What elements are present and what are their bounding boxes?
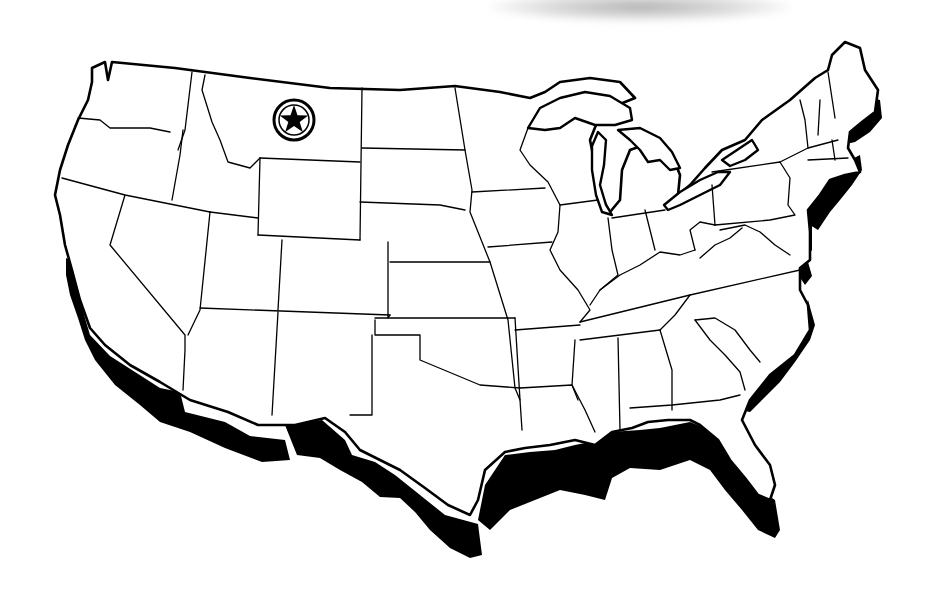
us-outline <box>55 42 878 515</box>
us-map <box>0 0 933 598</box>
star-circle-icon <box>274 100 314 140</box>
